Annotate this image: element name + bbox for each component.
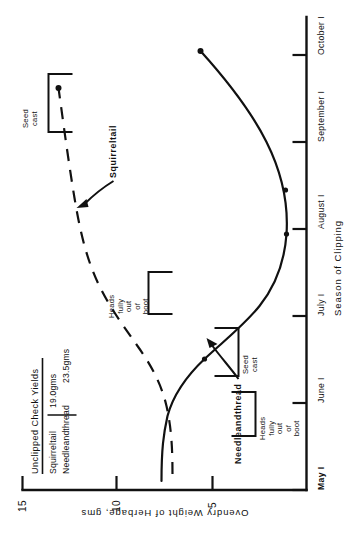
x-axis-title: Season of Clipping	[332, 220, 343, 316]
series-squirreltail-points	[55, 85, 61, 91]
squirreltail-leader-arrow	[84, 181, 113, 204]
y-tick-label-15: 15	[16, 500, 27, 512]
x-tick-label-july: July I	[316, 294, 326, 316]
figure-canvas: May I June I July I August I September I…	[0, 0, 349, 534]
rotated-plot-container: May I June I July I August I September I…	[0, 0, 349, 534]
series-label-squirreltail: Squirreltail	[108, 125, 118, 178]
y-axis-ticks	[22, 476, 212, 490]
bracket-squirreltail-boot	[148, 272, 172, 314]
legend-row-needleandthread-value: 23.5gms	[61, 349, 71, 383]
x-tick-label-october: October I	[316, 16, 326, 55]
x-tick-label-may: May I	[316, 467, 326, 491]
annotation-needleandthread-seed: Seed cast	[241, 355, 258, 374]
x-tick-label-august: August I	[316, 194, 326, 229]
series-needleandthread-points	[197, 48, 289, 362]
annotation-squirreltail-boot: Heads fully out of boot	[107, 295, 150, 318]
x-tick-label-september: September I	[316, 91, 326, 142]
legend-row-needleandthread-name: Needleandthread	[61, 405, 71, 474]
legend-row-squirreltail-name: Squirreltail	[48, 431, 58, 474]
legend-row-squirreltail-value: 19.0gms	[48, 374, 58, 408]
x-tick-label-june: June I	[316, 377, 326, 403]
needleandthread-arrowhead	[206, 338, 217, 348]
bracket-squirreltail-seed	[48, 74, 72, 132]
needleandthread-leader-arrow	[212, 346, 238, 379]
annotation-squirreltail-seed: Seed cast	[21, 109, 38, 128]
legend-title: Unclipped Check Yields	[29, 368, 39, 474]
squirreltail-arrowhead	[76, 199, 88, 208]
y-axis-title: Ovendry Weight of Herbage, gms	[80, 507, 248, 518]
series-label-needleandthread: Needleandthread	[233, 384, 243, 464]
annotation-needleandthread-boot: Heads fully out of boot	[258, 417, 301, 440]
